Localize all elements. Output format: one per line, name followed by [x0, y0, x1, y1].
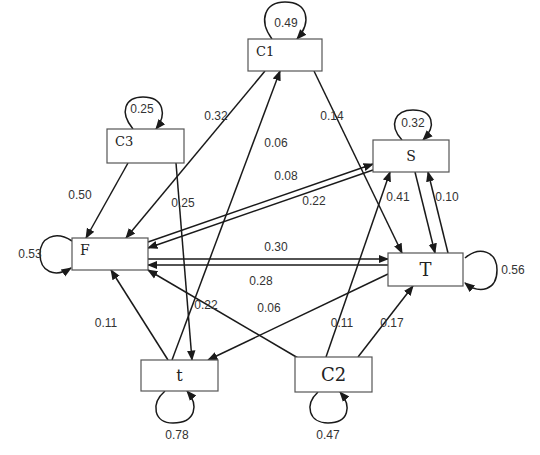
edge-C3-to-t — [176, 163, 192, 360]
edge-weight-label: 0.14 — [320, 109, 344, 123]
edge-S-to-T — [415, 172, 435, 253]
self-loop-weight-label: 0.32 — [401, 116, 425, 130]
edge-C3-to-F — [86, 163, 128, 238]
node-C1: C1 — [248, 39, 322, 71]
edge-weight-label: 0.22 — [194, 298, 218, 312]
self-loop-F — [40, 236, 72, 273]
self-loop-C2 — [310, 392, 347, 423]
edge-t-to-F — [111, 270, 168, 360]
self-loop-weight-label: 0.78 — [165, 428, 189, 442]
node-label: C3 — [115, 134, 133, 149]
node-S: S — [373, 140, 449, 172]
edge-weight-label: 0.08 — [274, 169, 298, 183]
edge-weight-label: 0.41 — [386, 190, 410, 204]
edge-weight-label: 0.28 — [249, 274, 273, 288]
edge-weight-label: 0.30 — [264, 240, 288, 254]
node-label: t — [176, 366, 183, 385]
self-loop-weight-label: 0.47 — [316, 428, 340, 442]
edge-T-to-S — [428, 172, 448, 253]
edge-T-to-t — [208, 274, 388, 360]
node-t: t — [141, 360, 218, 391]
edge-weight-label: 0.32 — [204, 109, 228, 123]
edge-weight-label: 0.06 — [264, 136, 288, 150]
loop-labels: 0.490.250.320.530.560.780.47 — [18, 16, 525, 442]
edge-weight-label: 0.25 — [171, 196, 195, 210]
node-T: T — [388, 253, 463, 286]
self-loop-weight-label: 0.53 — [18, 247, 42, 261]
node-label: F — [80, 242, 90, 258]
node-label: C1 — [256, 44, 274, 59]
self-loop-weight-label: 0.49 — [274, 16, 298, 30]
edge-weight-label: 0.22 — [302, 194, 326, 208]
node-label: C2 — [321, 364, 346, 385]
node-C3: C3 — [107, 129, 184, 163]
node-F: F — [72, 238, 148, 270]
nodes: C1C3SFTtC2 — [72, 39, 463, 392]
self-loop-t — [156, 391, 194, 423]
edge-weight-label: 0.17 — [380, 316, 404, 330]
self-loop-T — [465, 251, 497, 289]
node-label: S — [406, 148, 416, 164]
self-loop-weight-label: 0.56 — [501, 263, 525, 277]
edge-weight-label: 0.11 — [95, 316, 118, 330]
edge-weight-label: 0.06 — [257, 301, 281, 315]
edge-weight-label: 0.11 — [331, 316, 354, 330]
node-label: T — [419, 259, 431, 280]
node-C2: C2 — [295, 357, 372, 392]
edge-weight-label: 0.50 — [68, 188, 92, 202]
path-diagram: C1C3SFTtC2 0.500.320.250.060.140.080.220… — [0, 0, 540, 455]
edge-weight-label: 0.10 — [435, 190, 459, 204]
self-loop-weight-label: 0.25 — [130, 102, 154, 116]
